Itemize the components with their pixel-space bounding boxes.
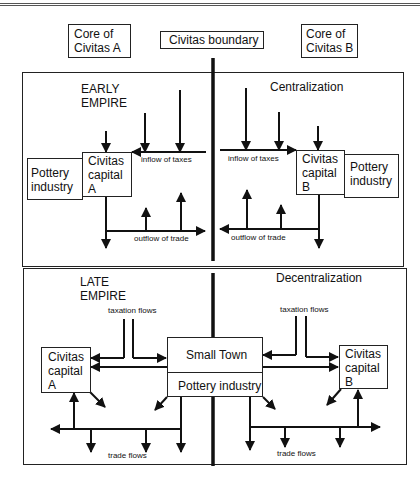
late-empire-title: LATE EMPIRE bbox=[80, 275, 126, 303]
early-civitas-capital-b: Civitas capital B bbox=[296, 150, 345, 195]
outflow-trade-left-label: outflow of trade bbox=[134, 234, 189, 244]
small-town-divider bbox=[168, 372, 262, 373]
decentralization-label: Decentralization bbox=[276, 271, 362, 285]
early-pottery-b-label: Pottery industry bbox=[350, 160, 392, 188]
late-capital-b-label: Civitas capital B bbox=[345, 347, 381, 389]
early-pottery-industry-a: Pottery industry bbox=[27, 158, 83, 200]
centralization-label: Centralization bbox=[270, 80, 343, 94]
early-pottery-industry-b: Pottery industry bbox=[344, 154, 399, 198]
early-pottery-a-label: Pottery industry bbox=[31, 166, 73, 194]
early-empire-title: EARLY EMPIRE bbox=[81, 82, 127, 110]
late-civitas-capital-a: Civitas capital A bbox=[41, 347, 91, 393]
small-town-label: Small Town bbox=[186, 348, 247, 362]
trade-flows-right-label: trade flows bbox=[277, 449, 316, 459]
early-capital-a-label: Civitas capital A bbox=[88, 154, 124, 196]
early-civitas-capital-a: Civitas capital A bbox=[82, 152, 132, 197]
trade-flows-left-label: trade flows bbox=[108, 451, 147, 461]
taxation-flows-left-label: taxation flows bbox=[108, 306, 156, 316]
inflow-taxes-right-label: inflow of taxes bbox=[228, 154, 279, 164]
early-capital-b-label: Civitas capital B bbox=[302, 152, 338, 194]
inflow-taxes-left-label: inflow of taxes bbox=[141, 155, 192, 165]
late-pottery-industry-label: Pottery industry bbox=[178, 379, 261, 393]
taxation-flows-right-label: taxation flows bbox=[280, 305, 328, 315]
flow-arrows bbox=[0, 0, 420, 488]
outflow-trade-right-label: outflow of trade bbox=[231, 233, 286, 243]
small-town-box: Small Town Pottery industry bbox=[167, 337, 263, 397]
late-capital-a-label: Civitas capital A bbox=[48, 350, 84, 392]
late-civitas-capital-b: Civitas capital B bbox=[339, 345, 388, 389]
